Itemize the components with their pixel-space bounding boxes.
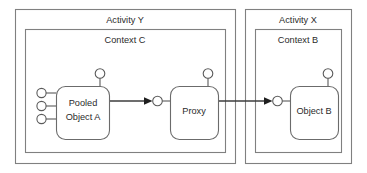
object-b-top-interface-ball[interactable] xyxy=(323,69,333,79)
object-b-interface-ball-left[interactable] xyxy=(273,96,283,106)
pooled-object-a-label-line1: Pooled xyxy=(69,98,98,108)
pooled-object-a-interface-ball-2[interactable] xyxy=(37,101,46,110)
proxy-interface-ball-left[interactable] xyxy=(153,96,163,106)
proxy-top-interface-ball[interactable] xyxy=(203,69,213,79)
pooled-object-a-interface-ball-1[interactable] xyxy=(37,88,46,97)
activity-x-label: Activity X xyxy=(279,15,317,25)
object-b-label-line1: Object B xyxy=(296,106,331,116)
context-b-label: Context B xyxy=(278,35,318,45)
diagram-canvas: Activity Y Context C Activity X Context … xyxy=(0,0,367,173)
activity-y-label: Activity Y xyxy=(106,15,144,25)
context-c-label: Context C xyxy=(105,35,146,45)
pooled-object-a-interface-ball-3[interactable] xyxy=(37,114,46,123)
pooled-object-a-label-line2: Object A xyxy=(66,112,102,122)
diagram-svg: Activity Y Context C Activity X Context … xyxy=(0,0,367,173)
pooled-object-a-top-interface-ball[interactable] xyxy=(95,69,105,79)
proxy-label-line1: Proxy xyxy=(182,106,206,116)
